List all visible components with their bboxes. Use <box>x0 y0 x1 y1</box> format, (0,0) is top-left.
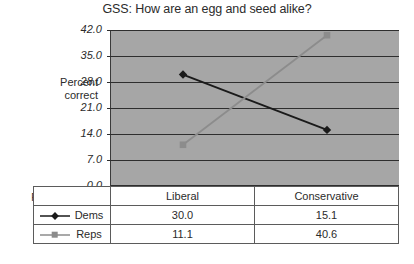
y-axis-tick-label: 28.0 <box>40 75 102 87</box>
legend-entry-dems: Dems <box>34 206 111 225</box>
table-header-row: LiberalConservative <box>34 187 399 206</box>
data-point-dems <box>179 70 187 78</box>
table-value-cell: 30.0 <box>111 206 255 225</box>
table-row: Dems30.015.1 <box>34 206 399 225</box>
chart-title: GSS: How are an egg and seed alike? <box>0 2 414 16</box>
series-layer <box>111 30 399 186</box>
legend-label: Reps <box>42 228 102 240</box>
y-axis-tick-label: 35.0 <box>40 49 102 61</box>
table-value-cell: 40.6 <box>255 225 399 244</box>
table-row: Reps11.140.6 <box>34 225 399 244</box>
data-table: LiberalConservativeDems30.015.1Reps11.14… <box>33 186 399 244</box>
chart-container: GSS: How are an egg and seed alike? Perc… <box>0 0 414 264</box>
table-value-cell: 11.1 <box>111 225 255 244</box>
series-line-dems <box>183 75 327 130</box>
table-column-header: Liberal <box>111 187 255 206</box>
table-column-header: Conservative <box>255 187 399 206</box>
data-point-dems <box>323 126 331 134</box>
y-axis-tick-label: 14.0 <box>40 127 102 139</box>
y-axis-tick-label: 21.0 <box>40 101 102 113</box>
table-value-cell: 15.1 <box>255 206 399 225</box>
data-point-reps <box>324 32 331 39</box>
data-point-reps <box>180 141 187 148</box>
legend-entry-reps: Reps <box>34 225 111 244</box>
table-corner-cell <box>34 187 111 206</box>
series-line-reps <box>183 35 327 145</box>
y-axis-tick-label: 7.0 <box>40 153 102 165</box>
legend-label: Dems <box>41 209 104 221</box>
y-axis-tick-label: 42.0 <box>40 23 102 35</box>
plot-area <box>110 30 399 186</box>
